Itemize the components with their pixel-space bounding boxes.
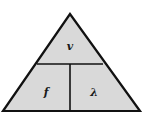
label-velocity: v bbox=[67, 40, 74, 53]
triangle-outline bbox=[3, 14, 140, 111]
label-wavelength: λ bbox=[89, 86, 98, 99]
formula-triangle: v f λ bbox=[0, 0, 145, 115]
